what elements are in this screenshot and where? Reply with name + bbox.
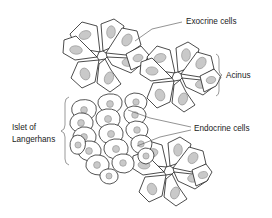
nucleus xyxy=(107,101,114,108)
label-endocrine-cells: Endocrine cells xyxy=(194,124,250,133)
pancreas-histology-illustration: Exocrine cells Acinus Endocrine cells Is… xyxy=(0,0,272,218)
acinus-top-left xyxy=(63,19,149,92)
acinar-lumen xyxy=(164,166,174,175)
nucleus xyxy=(105,116,112,123)
label-islet-line2: Langerhans xyxy=(12,135,55,144)
nucleus xyxy=(94,162,101,169)
nucleus xyxy=(86,148,93,155)
islet-cell xyxy=(138,148,154,164)
brace-islet xyxy=(61,97,69,165)
nucleus xyxy=(133,99,139,105)
nucleus xyxy=(138,141,144,147)
leader-line-exocrine xyxy=(135,22,182,41)
acinar-cell xyxy=(71,60,99,88)
acinus-top-right xyxy=(140,42,221,112)
nucleus xyxy=(113,146,120,153)
label-acinus: Acinus xyxy=(226,71,251,80)
nucleus xyxy=(75,142,81,148)
label-islet-line1: Islet of xyxy=(12,123,37,132)
nucleus xyxy=(108,131,115,138)
nucleus xyxy=(78,120,85,127)
acinar-cell xyxy=(147,81,174,108)
nucleus xyxy=(134,127,141,134)
nucleus xyxy=(106,173,112,179)
islet-cell xyxy=(70,135,85,154)
acinar-cell xyxy=(139,175,166,202)
nucleus xyxy=(120,160,127,167)
nucleus xyxy=(143,153,149,159)
acinar-lumen xyxy=(97,51,107,60)
islet-cell xyxy=(100,169,118,184)
nucleus xyxy=(81,107,88,114)
label-exocrine-cells: Exocrine cells xyxy=(186,17,237,26)
diagram-canvas: Exocrine cells Acinus Endocrine cells Is… xyxy=(0,0,272,218)
acinar-lumen xyxy=(172,72,182,81)
